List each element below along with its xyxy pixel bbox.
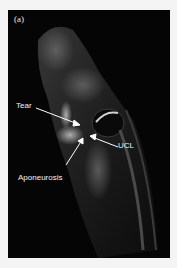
mri-image-panel: (a) Tear UCL Aponeurosis	[8, 10, 170, 258]
mri-scan-graphic	[8, 10, 170, 258]
ucl-label: UCL	[118, 142, 134, 150]
tear-label: Tear	[16, 102, 32, 110]
aponeurosis-label: Aponeurosis	[18, 174, 62, 182]
panel-label: (a)	[14, 15, 24, 24]
